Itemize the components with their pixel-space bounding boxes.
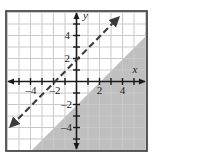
- y-tick-label-2: 2: [65, 52, 71, 64]
- y-tick-label-neg4: –4: [60, 121, 73, 133]
- y-tick-label-neg2: –2: [60, 98, 72, 110]
- y-tick-label-4: 4: [65, 29, 71, 41]
- x-tick-label-neg4: –4: [25, 84, 38, 96]
- x-tick-label-4: 4: [120, 84, 126, 96]
- x-tick-label-neg2: –2: [49, 84, 61, 96]
- coordinate-plane-svg: –4 –2 2 4 4 2 –2 –4 x y: [0, 0, 222, 161]
- x-tick-label-2: 2: [97, 84, 103, 96]
- graph-figure: –4 –2 2 4 4 2 –2 –4 x y: [0, 0, 222, 161]
- x-axis-label: x: [132, 63, 138, 75]
